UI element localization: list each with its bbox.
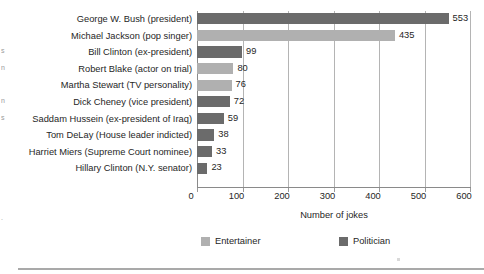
bar-row: 23 [197, 160, 470, 177]
category-label: Hillary Clinton (N.Y. senator) [0, 160, 196, 177]
legend-swatch-icon [339, 237, 348, 246]
bar [197, 63, 233, 74]
stray-speck [397, 258, 400, 261]
bar-value-label: 38 [218, 128, 228, 141]
legend-item-entertainer[interactable]: Entertainer [201, 236, 260, 246]
category-label: Saddam Hussein (ex-president of Iraq) [0, 111, 196, 128]
category-label: Bill Clinton (ex-president) [0, 44, 196, 61]
legend-swatch-icon [201, 237, 210, 246]
bar [197, 129, 214, 140]
bar [197, 30, 395, 41]
bar [197, 146, 212, 157]
edge-fragment: . [1, 214, 11, 221]
bar-value-label: 435 [399, 29, 415, 42]
bar-row: 33 [197, 144, 470, 161]
x-tick-label: 200 [274, 191, 290, 202]
bar-value-label: 23 [211, 161, 221, 174]
bar-row: 553 [197, 11, 470, 28]
legend-label: Entertainer [215, 236, 260, 246]
bar-value-label: 99 [246, 45, 256, 58]
bar-chart-figure: snns. George W. Bush (president)Michael … [0, 0, 484, 274]
x-tick-mark [197, 188, 198, 192]
bar-value-label: 553 [453, 12, 469, 25]
bar [197, 13, 449, 24]
bar [197, 46, 242, 57]
x-axis-title: Number of jokes [197, 210, 471, 220]
bar-row: 435 [197, 28, 470, 45]
bar [197, 163, 207, 174]
legend-item-politician[interactable]: Politician [339, 236, 390, 246]
bar-value-label: 59 [228, 112, 238, 125]
bar [197, 113, 224, 124]
x-axis-ticks: 0100200300400500600 [197, 188, 471, 202]
bar-row: 72 [197, 94, 470, 111]
category-axis-labels: George W. Bush (president)Michael Jackso… [0, 11, 196, 177]
category-label: Dick Cheney (vice president) [0, 94, 196, 111]
bar-row: 99 [197, 44, 470, 61]
x-tick-label: 0 [188, 191, 193, 202]
gridline-600 [470, 11, 471, 187]
x-tick-label: 300 [320, 191, 336, 202]
category-label: Harriet Miers (Supreme Court nominee) [0, 144, 196, 161]
chart-legend: EntertainerPolitician [197, 236, 471, 252]
category-label: Martha Stewart (TV personality) [0, 77, 196, 94]
x-tick-label: 500 [411, 191, 427, 202]
bars-container: 5534359980767259383323 [197, 11, 470, 187]
x-tick-label: 600 [456, 191, 472, 202]
bar-value-label: 33 [216, 145, 226, 158]
x-tick-label: 100 [229, 191, 245, 202]
plot-area: 5534359980767259383323 [197, 11, 470, 187]
bar [197, 96, 230, 107]
bar-value-label: 76 [236, 78, 246, 91]
category-label: Michael Jackson (pop singer) [0, 28, 196, 45]
x-tick-label: 400 [365, 191, 381, 202]
bar-row: 59 [197, 111, 470, 128]
bar-value-label: 72 [234, 95, 244, 108]
bar-row: 80 [197, 61, 470, 78]
category-label: Tom DeLay (House leader indicted) [0, 127, 196, 144]
bottom-horizontal-rule [18, 268, 484, 270]
bar-row: 76 [197, 77, 470, 94]
category-label: Robert Blake (actor on trial) [0, 61, 196, 78]
bar-row: 38 [197, 127, 470, 144]
bar [197, 80, 232, 91]
category-label: George W. Bush (president) [0, 11, 196, 28]
bar-value-label: 80 [237, 62, 247, 75]
legend-label: Politician [353, 236, 390, 246]
